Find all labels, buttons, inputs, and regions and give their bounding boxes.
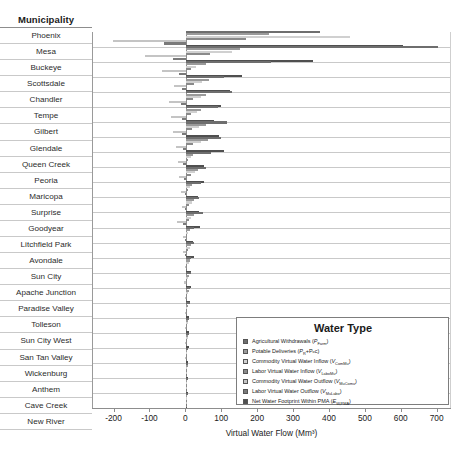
bar xyxy=(186,68,191,70)
x-axis-tick xyxy=(437,408,438,412)
bar-group xyxy=(93,167,450,182)
municipality-row-label: Maricopa xyxy=(0,189,92,205)
x-axis-tick xyxy=(293,408,294,412)
municipality-column-header: Municipality xyxy=(0,14,92,28)
bar-group xyxy=(93,32,450,47)
bar xyxy=(186,370,187,372)
municipality-row-label: San Tan Valley xyxy=(0,350,92,366)
bar-group xyxy=(93,92,450,107)
municipality-row-label: Gilbert xyxy=(0,124,92,140)
bar-group xyxy=(93,228,450,243)
x-axis-tick xyxy=(114,408,115,412)
municipality-row-label: Anthem xyxy=(0,382,92,398)
bar xyxy=(186,38,246,40)
bar-group xyxy=(93,273,450,288)
municipality-row-label: Queen Creek xyxy=(0,157,92,173)
bar-group xyxy=(93,197,450,212)
bar-group xyxy=(93,152,450,167)
x-axis-tick-label: 200 xyxy=(237,413,277,423)
municipality-row-label: Tempe xyxy=(0,108,92,124)
legend-item-label: Commodity Virtual Water Inflow (VComMu) xyxy=(252,358,350,366)
bar xyxy=(186,113,191,115)
legend-swatch-icon xyxy=(243,389,248,394)
municipality-row-label: Surprise xyxy=(0,205,92,221)
x-axis-tick xyxy=(149,408,150,412)
x-axis-tick-label: 100 xyxy=(201,413,241,423)
municipality-row-label: Paradise Valley xyxy=(0,301,92,317)
x-axis-tick xyxy=(185,408,186,412)
bar-group xyxy=(93,212,450,227)
bar-group xyxy=(93,303,450,318)
legend-swatch-icon xyxy=(243,349,248,354)
x-axis-label: Virtual Water Flow (Mm³) xyxy=(92,428,451,438)
bar-group xyxy=(93,182,450,197)
bar xyxy=(186,294,187,296)
municipality-row-label: Goodyear xyxy=(0,221,92,237)
x-axis-tick xyxy=(221,408,222,412)
bar xyxy=(186,128,192,130)
bar xyxy=(186,355,187,357)
legend-item[interactable]: Labor Virtual Water Inflow (VLaboMu) xyxy=(243,367,443,377)
legend-item[interactable]: Commodity Virtual Water Inflow (VComMu) xyxy=(243,357,443,367)
municipality-row-label: New River xyxy=(0,414,92,430)
bar-group xyxy=(93,258,450,273)
bar xyxy=(186,53,210,55)
bar xyxy=(186,143,192,145)
municipality-row-label: Litchfield Park xyxy=(0,237,92,253)
bar-group xyxy=(93,62,450,77)
legend-title: Water Type xyxy=(243,322,443,334)
municipality-row-label: Apache Junction xyxy=(0,285,92,301)
legend-swatch-icon xyxy=(243,379,248,384)
legend-items: Agricultural Withdrawals (PFarm)Potable … xyxy=(243,337,443,407)
x-axis-tick-label: 400 xyxy=(309,413,349,423)
bar xyxy=(186,400,187,402)
x-axis-line xyxy=(92,408,451,409)
x-axis-tick-label: 700 xyxy=(417,413,454,423)
municipality-row-label: Phoenix xyxy=(0,28,92,44)
municipality-row-label: Tolleson xyxy=(0,317,92,333)
bar xyxy=(186,189,188,191)
municipality-row-label: Glendale xyxy=(0,141,92,157)
x-axis-tick-label: 300 xyxy=(273,413,313,423)
legend-item-label: Labor Virtual Water Outflow (VMuLabo) xyxy=(252,388,341,396)
legend-item[interactable]: Commodity Virtual Water Outflow (VMuComu… xyxy=(243,377,443,387)
x-axis-tick xyxy=(329,408,330,412)
legend-item[interactable]: Potable Deliveries (PR+Pₒᴄ) xyxy=(243,347,443,357)
municipality-row-label: Mesa xyxy=(0,44,92,60)
bar-group xyxy=(93,243,450,258)
x-axis-tick xyxy=(365,408,366,412)
legend-box: Water Type Agricultural Withdrawals (PFa… xyxy=(236,317,449,405)
municipality-row-label: Sun City West xyxy=(0,333,92,349)
municipality-row-label: Sun City xyxy=(0,269,92,285)
bar-group xyxy=(93,47,450,62)
x-axis-tick-label: -100 xyxy=(129,413,169,423)
bar xyxy=(186,279,187,281)
legend-swatch-icon xyxy=(243,359,248,364)
municipality-row-label: Buckeye xyxy=(0,60,92,76)
bar xyxy=(173,58,186,60)
legend-item[interactable]: Net Water Footprint Within PMA (EW,PMA) xyxy=(243,397,443,407)
bar-group xyxy=(93,137,450,152)
municipality-name-list: PhoenixMesaBuckeyeScottsdaleChandlerTemp… xyxy=(0,28,92,430)
bar-group xyxy=(93,77,450,92)
x-axis-tick-label: 500 xyxy=(345,413,385,423)
legend-item[interactable]: Labor Virtual Water Outflow (VMuLabo) xyxy=(243,387,443,397)
x-axis-tick xyxy=(401,408,402,412)
bar xyxy=(164,42,186,44)
bar xyxy=(186,324,187,326)
legend-swatch-icon xyxy=(243,399,248,404)
chart-root: Municipality PhoenixMesaBuckeyeScottsdal… xyxy=(0,0,454,454)
municipality-row-label: Scottsdale xyxy=(0,76,92,92)
bar xyxy=(186,309,187,311)
x-axis-tick-label: 600 xyxy=(381,413,421,423)
bar xyxy=(186,204,189,206)
bar xyxy=(186,83,194,85)
bar xyxy=(186,174,190,176)
legend-item[interactable]: Agricultural Withdrawals (PFarm) xyxy=(243,337,443,347)
municipality-row-label: Peoria xyxy=(0,173,92,189)
legend-item-label: Labor Virtual Water Inflow (VLaboMu) xyxy=(252,368,337,376)
municipality-row-label: Cave Creek xyxy=(0,398,92,414)
municipality-row-label: Chandler xyxy=(0,92,92,108)
bar xyxy=(186,234,187,236)
bar xyxy=(186,98,192,100)
